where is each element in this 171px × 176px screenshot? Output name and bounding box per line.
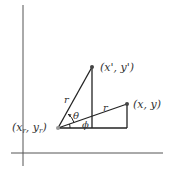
label-pivot-point: (xr, yr) bbox=[12, 121, 47, 135]
label-r-rotated: r bbox=[64, 94, 70, 105]
label-r-original: r bbox=[103, 102, 109, 113]
pivot-point bbox=[56, 126, 60, 130]
phi-arc-icon bbox=[70, 124, 71, 128]
rotated-point bbox=[90, 65, 94, 69]
label-rotated-point: (x', y') bbox=[100, 61, 134, 74]
label-phi: ϕ bbox=[82, 119, 89, 130]
rotation-diagram: (x', y') (x, y) (xr, yr) r r θ ϕ bbox=[0, 0, 171, 176]
label-original-point: (x, y) bbox=[133, 98, 161, 111]
original-point bbox=[125, 102, 129, 106]
label-theta: θ bbox=[73, 110, 79, 121]
